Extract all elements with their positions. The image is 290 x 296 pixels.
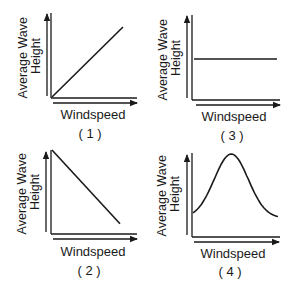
y-axis-label: Average Wave Height — [156, 16, 183, 101]
x-axis-label: Windspeed — [60, 244, 125, 259]
y-axis-label: Average Wave Height — [15, 150, 42, 235]
graph-number: ( 1 ) — [78, 126, 101, 141]
graph-2: Average Wave Height Windspeed ( 2 ) — [15, 150, 137, 278]
graph-3: Average Wave Height Windspeed ( 3 ) — [156, 15, 280, 143]
x-axis-label: Windspeed — [60, 107, 125, 122]
graph-number: ( 3 ) — [220, 128, 243, 143]
data-line — [52, 150, 120, 224]
y-axis-label: Average Wave Height — [155, 152, 182, 237]
graph-number: ( 4 ) — [218, 264, 241, 279]
data-line — [52, 27, 123, 97]
y-axis-label: Average Wave Height — [16, 14, 43, 99]
data-curve — [193, 154, 278, 217]
graph-1: Average Wave Height Windspeed ( 1 ) — [16, 13, 137, 141]
graph-4: Average Wave Height Windspeed ( 4 ) — [155, 152, 280, 279]
x-axis-label: Windspeed — [200, 246, 265, 261]
wave-height-graphs: Average Wave Height Windspeed ( 1 ) Aver… — [0, 0, 290, 296]
graph-number: ( 2 ) — [77, 263, 100, 278]
x-axis-label: Windspeed — [201, 109, 266, 124]
